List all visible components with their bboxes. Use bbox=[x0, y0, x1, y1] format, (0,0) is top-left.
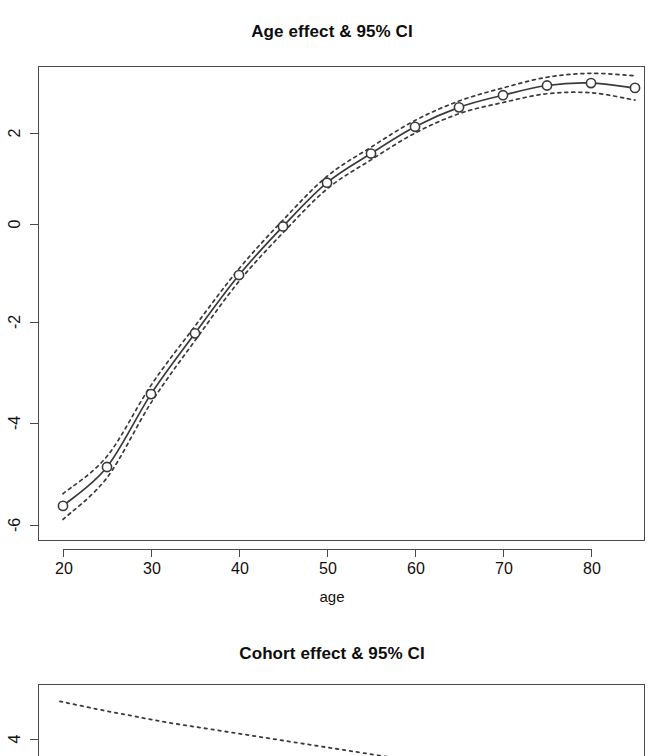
age-xtick-mark-40 bbox=[239, 549, 240, 557]
age-xtick-label-80: 80 bbox=[583, 560, 601, 578]
age-xtick-mark-20 bbox=[63, 549, 64, 557]
age-effect-panel: Age effect & 95% CI 2 0 -2 -4 -6 20 30 4… bbox=[0, 0, 664, 620]
age-data-point-25 bbox=[102, 462, 111, 471]
figure-sheet: Age effect & 95% CI 2 0 -2 -4 -6 20 30 4… bbox=[0, 0, 664, 756]
age-xtick-label-30: 30 bbox=[143, 560, 161, 578]
age-data-point-70 bbox=[498, 91, 507, 100]
cohort-ytick-mark-4 bbox=[30, 739, 38, 740]
age-data-point-45 bbox=[278, 222, 287, 231]
age-data-point-50 bbox=[322, 178, 331, 187]
age-xtick-label-70: 70 bbox=[495, 560, 513, 578]
cohort-effect-panel: Cohort effect & 95% CI 4 bbox=[0, 620, 664, 756]
cohort-panel-title: Cohort effect & 95% CI bbox=[0, 644, 664, 664]
age-xtick-mark-80 bbox=[591, 549, 592, 557]
age-data-point-55 bbox=[366, 149, 375, 158]
age-ytick-mark-neg6 bbox=[30, 525, 38, 526]
age-data-point-75 bbox=[542, 81, 551, 90]
age-ytick-mark-0 bbox=[30, 224, 38, 225]
age-plot-region bbox=[38, 66, 645, 541]
age-xtick-mark-60 bbox=[415, 549, 416, 557]
cohort-ytick-label-4: 4 bbox=[6, 735, 24, 744]
age-panel-title: Age effect & 95% CI bbox=[0, 22, 664, 42]
cohort-plot-region bbox=[38, 684, 645, 756]
age-ytick-label-2: 2 bbox=[6, 129, 24, 138]
age-data-point-85 bbox=[630, 83, 639, 92]
age-ytick-mark-2 bbox=[30, 133, 38, 134]
age-data-point-40 bbox=[234, 270, 243, 279]
age-xtick-label-60: 60 bbox=[407, 560, 425, 578]
age-xtick-mark-30 bbox=[151, 549, 152, 557]
age-ytick-mark-neg4 bbox=[30, 423, 38, 424]
age-data-point-60 bbox=[410, 122, 419, 131]
age-data-point-65 bbox=[454, 103, 463, 112]
age-ytick-label-0: 0 bbox=[6, 220, 24, 229]
age-xtick-label-50: 50 bbox=[319, 560, 337, 578]
age-ytick-mark-neg2 bbox=[30, 322, 38, 323]
age-xtick-label-20: 20 bbox=[55, 560, 73, 578]
age-series-layer bbox=[38, 66, 645, 541]
age-xtick-mark-70 bbox=[503, 549, 504, 557]
age-xaxis-label: age bbox=[0, 588, 664, 605]
age-ytick-label-neg4: -4 bbox=[6, 416, 24, 430]
cohort-series-layer bbox=[38, 684, 645, 756]
age-ytick-label-neg2: -2 bbox=[6, 315, 24, 329]
age-data-point-30 bbox=[146, 390, 155, 399]
age-xtick-label-40: 40 bbox=[231, 560, 249, 578]
age-xtick-mark-50 bbox=[327, 549, 328, 557]
age-data-point-80 bbox=[586, 78, 595, 87]
age-data-point-20 bbox=[58, 501, 67, 510]
age-ytick-label-neg6: -6 bbox=[6, 518, 24, 532]
age-data-point-35 bbox=[190, 329, 199, 338]
